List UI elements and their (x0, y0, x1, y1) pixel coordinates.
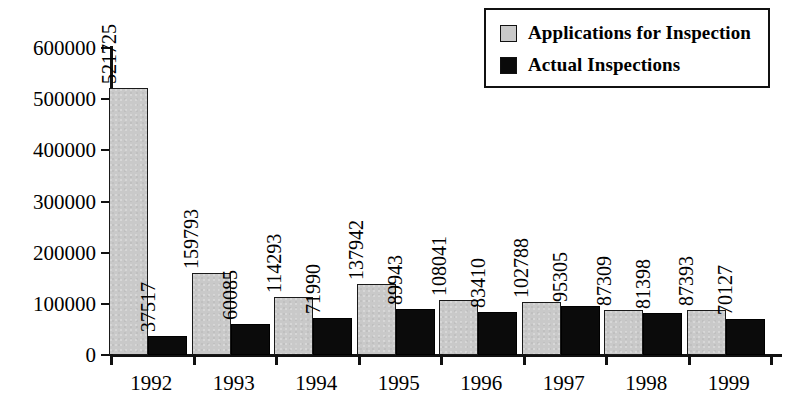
x-axis-tick (770, 354, 773, 365)
bar-value-label: 159793 (181, 209, 201, 269)
y-axis-tick-label: 200000 (0, 240, 96, 265)
x-axis-group-label-1992: 1992 (130, 371, 172, 396)
gray-swatch-icon (500, 25, 517, 42)
bar-1993-actual: 60085 (231, 324, 270, 355)
x-axis-group-label-1997: 1997 (543, 371, 585, 396)
bar-1992-actual: 37517 (148, 336, 187, 355)
bar-value-label: 87393 (676, 256, 696, 306)
y-axis-tick-label: 300000 (0, 189, 96, 214)
bar-value-label: 137942 (346, 220, 366, 280)
x-axis-tick (193, 354, 196, 365)
bar-1996-actual: 83410 (478, 312, 517, 355)
legend: Applications for Inspection Actual Inspe… (484, 8, 770, 88)
bar-value-label: 114293 (263, 233, 283, 292)
x-axis-group-label-1994: 1994 (295, 371, 337, 396)
x-axis-group-label-1999: 1999 (708, 371, 750, 396)
x-axis-tick (523, 354, 526, 365)
legend-item-label: Applications for Inspection (528, 22, 751, 44)
y-axis-tick-label: 0 (0, 343, 96, 368)
bar-1997-actual: 95305 (561, 306, 600, 355)
x-axis-tick (358, 354, 361, 365)
x-axis-group-label-1996: 1996 (460, 371, 502, 396)
bar-value-label: 81398 (632, 259, 652, 309)
x-axis-tick (110, 354, 113, 365)
legend-item-applications: Applications for Inspection (500, 17, 768, 49)
bar-1996-applications: 108041 (439, 300, 478, 355)
y-axis-tick-label: 100000 (0, 291, 96, 316)
bar-value-label: 108041 (428, 236, 448, 296)
bar-value-label: 71990 (302, 264, 322, 314)
bar-1995-actual: 89943 (396, 309, 435, 355)
bar-1999-applications: 87393 (687, 310, 726, 355)
y-axis-tick-label: 600000 (0, 36, 96, 61)
bar-1994-actual: 71990 (313, 318, 352, 355)
bar-value-label: 521725 (98, 24, 118, 84)
plot-area: 5217253751715979360085114293719901379428… (110, 48, 770, 355)
y-axis-tick-label: 400000 (0, 138, 96, 163)
legend-item-actual: Actual Inspections (500, 49, 768, 81)
x-axis-group-label-1995: 1995 (378, 371, 420, 396)
x-axis-tick (275, 354, 278, 365)
bar-value-label: 89943 (385, 255, 405, 305)
x-axis-tick (605, 354, 608, 365)
bar-1998-applications: 87309 (604, 310, 643, 355)
bar-value-label: 70127 (715, 265, 735, 315)
bar-1997-applications: 102788 (522, 302, 561, 355)
x-axis-tick (440, 354, 443, 365)
bar-1999-actual: 70127 (726, 319, 765, 355)
bar-value-label: 87309 (593, 256, 613, 306)
bar-value-label: 95305 (550, 252, 570, 302)
x-axis-group-label-1998: 1998 (625, 371, 667, 396)
bar-value-label: 83410 (467, 258, 487, 308)
black-swatch-icon (500, 57, 517, 74)
bar-value-label: 60085 (220, 270, 240, 320)
x-axis-group-label-1993: 1993 (213, 371, 255, 396)
x-axis-tick (688, 354, 691, 365)
bar-value-label: 102788 (511, 238, 531, 298)
bar-value-label: 37517 (137, 282, 157, 332)
y-axis-tick-label: 500000 (0, 87, 96, 112)
bar-1998-actual: 81398 (643, 313, 682, 355)
legend-item-label: Actual Inspections (528, 54, 680, 76)
bar-chart: 0100000200000300000400000500000600000 52… (0, 0, 790, 412)
